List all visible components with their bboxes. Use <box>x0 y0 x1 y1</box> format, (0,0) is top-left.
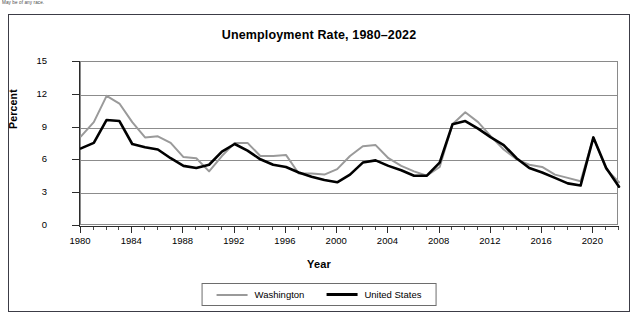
x-axis-tick-major <box>336 227 337 233</box>
chart-legend: Washington United States <box>202 283 437 306</box>
y-axis-tick-label: 9 <box>17 121 47 132</box>
legend-label-washington: Washington <box>255 289 305 300</box>
x-axis-tick-label: 1988 <box>162 235 202 246</box>
x-axis-tick-major <box>490 227 491 233</box>
x-axis-tick-minor <box>272 227 273 230</box>
x-axis-tick-major <box>387 227 388 233</box>
x-axis-tick-minor <box>298 227 299 230</box>
x-axis-title: Year <box>9 258 629 270</box>
x-axis-tick-major <box>131 227 132 233</box>
x-axis-tick-label: 2012 <box>470 235 510 246</box>
x-axis-tick-minor <box>208 227 209 230</box>
x-axis-tick-major <box>541 227 542 233</box>
y-axis-line <box>79 61 80 226</box>
x-axis-tick-label: 2008 <box>419 235 459 246</box>
y-axis-tick <box>72 94 80 95</box>
x-axis-tick-minor <box>528 227 529 230</box>
x-axis-tick-minor <box>503 227 504 230</box>
x-axis-tick-minor <box>464 227 465 230</box>
y-axis-tick <box>72 192 80 193</box>
legend-label-united-states: United States <box>364 289 421 300</box>
x-axis-tick-minor <box>362 227 363 230</box>
x-axis-tick-label: 2004 <box>367 235 407 246</box>
x-axis-tick-minor <box>93 227 94 230</box>
y-axis-tick <box>72 159 80 160</box>
x-axis-tick-minor <box>259 227 260 230</box>
x-axis-tick-minor <box>554 227 555 230</box>
x-axis-tick-label: 1980 <box>60 235 100 246</box>
series-lines-group <box>81 62 619 226</box>
legend-item-washington[interactable]: Washington <box>217 289 305 300</box>
x-axis-tick-label: 1984 <box>111 235 151 246</box>
x-axis-tick-minor <box>451 227 452 230</box>
x-axis-tick-minor <box>477 227 478 230</box>
series-line-washington <box>81 96 619 182</box>
legend-swatch-washington-icon <box>217 294 248 296</box>
footnote-text: May be of any race. <box>2 0 44 5</box>
x-axis-tick-major <box>285 227 286 233</box>
x-axis-tick-minor <box>106 227 107 230</box>
x-axis-tick-label: 1996 <box>265 235 305 246</box>
y-axis-tick-label: 12 <box>17 88 47 99</box>
x-axis-tick-minor <box>618 227 619 230</box>
chart-figure-frame: Unemployment Rate, 1980–2022 Percent 036… <box>8 14 630 312</box>
x-axis-tick-minor <box>195 227 196 230</box>
x-axis-tick-label: 1992 <box>214 235 254 246</box>
x-axis-tick-minor <box>413 227 414 230</box>
x-axis-tick-minor <box>605 227 606 230</box>
x-axis-tick-major <box>234 227 235 233</box>
x-axis-tick-minor <box>323 227 324 230</box>
legend-item-united-states[interactable]: United States <box>326 289 421 300</box>
x-axis-tick-minor <box>567 227 568 230</box>
x-axis-tick-minor <box>580 227 581 230</box>
x-axis-tick-label: 2000 <box>316 235 356 246</box>
y-axis-tick <box>72 61 80 62</box>
y-axis-tick-label: 6 <box>17 153 47 164</box>
x-axis-tick-label: 2016 <box>521 235 561 246</box>
y-axis-tick-label: 3 <box>17 186 47 197</box>
x-axis-tick-minor <box>157 227 158 230</box>
y-axis-tick-label: 0 <box>17 219 47 230</box>
legend-swatch-united-states-icon <box>326 293 357 296</box>
x-axis-tick-minor <box>221 227 222 230</box>
plot-area <box>80 61 618 225</box>
x-axis-tick-minor <box>170 227 171 230</box>
x-axis-tick-minor <box>144 227 145 230</box>
x-axis-tick-minor <box>118 227 119 230</box>
x-axis-tick-major <box>182 227 183 233</box>
x-axis-tick-major <box>80 227 81 233</box>
x-axis-tick-major <box>439 227 440 233</box>
x-axis-tick-minor <box>516 227 517 230</box>
x-axis-tick-label: 2020 <box>572 235 612 246</box>
x-axis-tick-minor <box>426 227 427 230</box>
y-axis-tick-label: 15 <box>17 55 47 66</box>
series-line-united-states <box>81 120 619 187</box>
y-axis-tick <box>72 127 80 128</box>
x-axis-tick-minor <box>349 227 350 230</box>
x-axis-tick-minor <box>400 227 401 230</box>
x-axis-tick-minor <box>375 227 376 230</box>
x-axis-tick-major <box>592 227 593 233</box>
x-axis-tick-minor <box>247 227 248 230</box>
chart-title: Unemployment Rate, 1980–2022 <box>9 28 629 42</box>
x-axis-tick-minor <box>311 227 312 230</box>
